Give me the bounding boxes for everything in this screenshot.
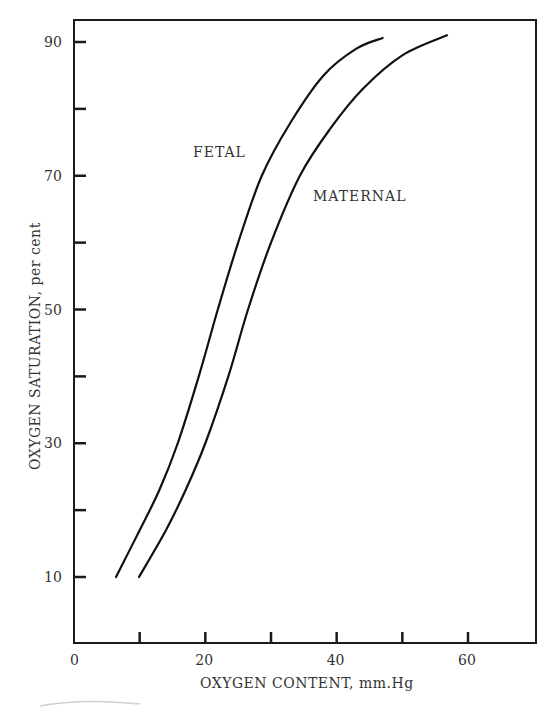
x-axis-title: OXYGEN CONTENT, mm.Hg (200, 675, 414, 691)
oxygen-dissociation-chart: 0204060 1030507090 FETALMATERNAL OXYGEN … (0, 0, 556, 708)
curve-label-maternal: MATERNAL (313, 188, 406, 204)
curves (116, 35, 447, 577)
curve-label-fetal: FETAL (193, 144, 246, 160)
y-tick-label: 50 (44, 302, 62, 318)
plot-border (74, 20, 536, 643)
y-tick-label: 30 (44, 435, 62, 451)
decorative-stain-arc (40, 701, 140, 706)
y-tick-label: 70 (44, 168, 62, 184)
x-tick-label: 0 (70, 652, 79, 668)
y-tick-label: 90 (44, 34, 62, 50)
plot-frame (74, 20, 536, 643)
y-axis-ticks: 1030507090 (44, 34, 86, 585)
x-tick-label: 60 (458, 652, 476, 668)
x-axis-ticks: 0204060 (70, 632, 476, 668)
x-tick-label: 20 (195, 652, 213, 668)
y-axis-title: OXYGEN SATURATION, per cent (27, 222, 43, 470)
x-tick-label: 40 (327, 652, 345, 668)
y-tick-label: 10 (44, 569, 62, 585)
